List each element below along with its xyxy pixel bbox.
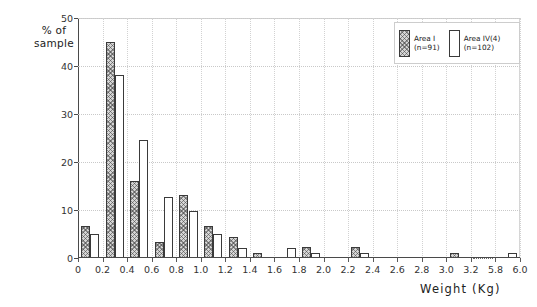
x-tick-mark-0.6: [152, 258, 153, 262]
x-axis-title: Weight (Kg): [420, 282, 501, 296]
bar-AreaIV4-0-0.2: [90, 234, 99, 258]
x-tick-mark-0.2: [103, 258, 104, 262]
bar-AreaIV4-0.4-0.6: [139, 140, 148, 258]
bar-AreaI-0.2-0.4: [106, 42, 115, 258]
x-tick-mark-2.8: [422, 258, 423, 262]
bar-AreaI-0.4-0.6: [130, 181, 139, 258]
chart-legend: Area I (n=91) Area IV(4) (n=102): [394, 22, 520, 64]
x-tick-mark-1.6: [274, 258, 275, 262]
gridline-x-1.0: [201, 18, 202, 258]
x-tick-label-2.0: 2.0: [316, 264, 331, 275]
gridline-x-2.2: [348, 18, 349, 258]
gridline-x-1.8: [299, 18, 300, 258]
x-tick-mark-2.0: [324, 258, 325, 262]
y-tick-mark-50: [74, 18, 78, 19]
x-tick-label-0.8: 0.8: [169, 264, 184, 275]
x-tick-mark-3.0: [446, 258, 447, 262]
y-tick-mark-40: [74, 66, 78, 67]
gridline-x-2.0: [324, 18, 325, 258]
gridline-x-1.4: [250, 18, 251, 258]
x-tick-mark-6.0: [520, 258, 521, 262]
x-tick-label-0.4: 0.4: [120, 264, 135, 275]
x-tick-label-3.2: 3.2: [463, 264, 478, 275]
bar-AreaI-0.8-1.0: [179, 195, 188, 258]
x-tick-label-2.2: 2.2: [341, 264, 356, 275]
gridline-x-0.4: [127, 18, 128, 258]
x-tick-label-1.6: 1.6: [267, 264, 282, 275]
bar-AreaI-1.2-1.4: [229, 237, 238, 258]
gridline-x-6.0: [520, 18, 521, 258]
legend-entry-area-i: Area I (n=91): [399, 30, 440, 57]
x-tick-label-1.8: 1.8: [291, 264, 306, 275]
y-tick-mark-10: [74, 210, 78, 211]
x-tick-mark-5.8: [495, 258, 496, 262]
bar-AreaI-0-0.2: [81, 226, 90, 258]
bar-AreaIV4-0.8-1.0: [189, 211, 198, 258]
x-tick-mark-1.8: [299, 258, 300, 262]
x-tick-mark-0.8: [176, 258, 177, 262]
gridline-x-0.2: [103, 18, 104, 258]
bar-AreaI-0.6-0.8: [155, 242, 164, 258]
x-tick-label-5.8: 5.8: [488, 264, 503, 275]
x-tick-label-2.8: 2.8: [414, 264, 429, 275]
gridline-x-1.6: [274, 18, 275, 258]
x-tick-mark-2.4: [373, 258, 374, 262]
gridline-x-2.4: [373, 18, 374, 258]
x-tick-label-0.2: 0.2: [95, 264, 110, 275]
legend-swatch-area-iv: [449, 30, 460, 57]
x-tick-mark-1.0: [201, 258, 202, 262]
bar-AreaIV4-1.0-1.2: [213, 234, 222, 258]
x-tick-label-2.4: 2.4: [365, 264, 380, 275]
x-tick-label-3.0: 3.0: [439, 264, 454, 275]
x-tick-label-1.4: 1.4: [242, 264, 257, 275]
gridline-x-0.6: [152, 18, 153, 258]
legend-label-area-i: Area I (n=91): [414, 34, 440, 52]
x-tick-label-0.6: 0.6: [144, 264, 159, 275]
x-tick-label-6.0: 6.0: [512, 264, 527, 275]
bar-AreaIV4-0.2-0.4: [115, 75, 124, 258]
x-tick-mark-0.4: [127, 258, 128, 262]
bar-AreaIV4-0.6-0.8: [164, 197, 173, 258]
x-tick-mark-0: [78, 258, 79, 262]
x-tick-label-1.0: 1.0: [193, 264, 208, 275]
legend-label-area-iv: Area IV(4) (n=102): [464, 34, 501, 52]
x-tick-label-0: 0: [75, 264, 81, 275]
y-axis-title: % of sample: [26, 24, 82, 50]
legend-entry-area-iv: Area IV(4) (n=102): [449, 30, 501, 57]
x-tick-mark-2.2: [348, 258, 349, 262]
gridline-x-0.8: [176, 18, 177, 258]
x-tick-label-1.2: 1.2: [218, 264, 233, 275]
chart-figure: % of sample 01020304050 00.20.40.60.81.0…: [0, 0, 537, 307]
x-axis-break-dotted: [473, 258, 494, 259]
y-tick-mark-30: [74, 114, 78, 115]
x-tick-label-2.6: 2.6: [390, 264, 405, 275]
x-tick-mark-2.6: [397, 258, 398, 262]
bar-AreaI-1.0-1.2: [204, 226, 213, 258]
x-tick-mark-1.4: [250, 258, 251, 262]
x-tick-mark-1.2: [225, 258, 226, 262]
y-tick-mark-20: [74, 162, 78, 163]
x-tick-mark-3.2: [471, 258, 472, 262]
legend-swatch-area-i: [399, 30, 410, 57]
gridline-x-1.2: [225, 18, 226, 258]
